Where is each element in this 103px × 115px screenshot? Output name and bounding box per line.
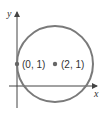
- point-label-0-1: (0, 1): [22, 59, 45, 70]
- point-2-1: [53, 62, 57, 66]
- point-0-1: [15, 62, 19, 66]
- point-label-2-1: (2, 1): [61, 59, 84, 70]
- x-axis-label: x: [93, 88, 99, 99]
- y-axis-label: y: [6, 8, 12, 19]
- circle-diagram: (0, 1) (2, 1) x y: [0, 0, 103, 115]
